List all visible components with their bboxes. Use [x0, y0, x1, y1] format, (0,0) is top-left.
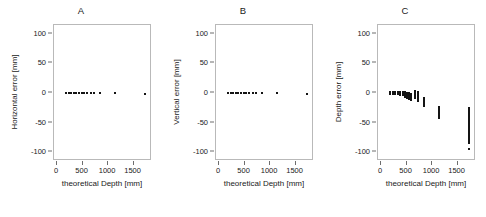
x-tick-label: 1000 — [261, 166, 278, 175]
x-tick-label: 1000 — [423, 166, 440, 175]
y-axis-title-a: Horizontal error [mm] — [10, 24, 19, 160]
y-tick-mark — [48, 121, 52, 122]
data-point — [99, 92, 101, 94]
x-tick-label: 500 — [75, 166, 88, 175]
x-tick-mark — [107, 161, 108, 165]
x-tick-label: 1500 — [286, 166, 303, 175]
x-tick-mark — [457, 161, 458, 165]
y-tick-label: 0 — [204, 88, 208, 97]
plot-area-a — [54, 25, 150, 159]
panel-c: C100500-50-100Depth error [mm]0500100015… — [324, 0, 486, 217]
x-tick-label: 1500 — [448, 166, 465, 175]
panel-title-a: A — [0, 5, 162, 16]
plot-frame-b — [215, 24, 313, 160]
data-point — [414, 90, 416, 92]
x-tick-mark — [406, 161, 407, 165]
x-tick-mark — [380, 161, 381, 165]
data-point — [255, 92, 257, 94]
x-tick-mark — [218, 161, 219, 165]
data-point — [468, 148, 470, 150]
y-tick-mark — [48, 151, 52, 152]
y-tick-mark — [372, 92, 376, 93]
data-point — [438, 106, 440, 108]
x-tick-label: 1000 — [99, 166, 116, 175]
x-axis-a: 050010001500theoretical Depth [mm] — [53, 160, 151, 200]
x-tick-mark — [56, 161, 57, 165]
x-tick-mark — [269, 161, 270, 165]
data-point — [417, 91, 419, 93]
plot-frame-c — [377, 24, 475, 160]
y-tick-label: -50 — [359, 117, 370, 126]
y-tick-mark — [48, 32, 52, 33]
data-point — [468, 107, 470, 109]
y-tick-label: 50 — [362, 58, 370, 67]
y-tick-label: 50 — [38, 58, 46, 67]
y-tick-mark — [372, 151, 376, 152]
y-tick-mark — [210, 62, 214, 63]
panel-title-c: C — [324, 5, 486, 16]
x-tick-mark — [244, 161, 245, 165]
y-tick-mark — [372, 121, 376, 122]
data-point — [114, 92, 116, 94]
x-tick-label: 500 — [399, 166, 412, 175]
data-point — [306, 93, 308, 95]
data-point — [276, 92, 278, 94]
y-tick-label: 100 — [357, 28, 370, 37]
x-tick-label: 500 — [237, 166, 250, 175]
y-tick-label: 100 — [33, 28, 46, 37]
data-point — [423, 97, 425, 99]
y-tick-label: -50 — [35, 117, 46, 126]
plot-frame-a — [53, 24, 151, 160]
plot-area-c — [378, 25, 474, 159]
y-axis-title-b: Vertical error [mm] — [172, 24, 181, 160]
x-tick-label: 0 — [216, 166, 220, 175]
y-tick-label: -50 — [197, 117, 208, 126]
x-axis-title-a: theoretical Depth [mm] — [53, 179, 151, 188]
data-point — [252, 92, 254, 94]
x-tick-mark — [82, 161, 83, 165]
x-axis-c: 050010001500theoretical Depth [mm] — [377, 160, 475, 200]
data-point — [86, 92, 88, 94]
y-tick-label: 50 — [200, 58, 208, 67]
y-axis-b: 100500-50-100Vertical error [mm] — [162, 24, 215, 160]
y-axis-c: 100500-50-100Depth error [mm] — [324, 24, 377, 160]
figure-panel-group: A100500-50-100Horizontal error [mm]05001… — [0, 0, 486, 217]
plot-area-b — [216, 25, 312, 159]
data-point — [261, 92, 263, 94]
x-axis-title-b: theoretical Depth [mm] — [215, 179, 313, 188]
y-tick-mark — [372, 32, 376, 33]
y-tick-label: 0 — [42, 88, 46, 97]
data-point — [144, 93, 146, 95]
data-point — [410, 93, 412, 95]
y-tick-label: 0 — [366, 88, 370, 97]
y-tick-mark — [48, 92, 52, 93]
y-tick-mark — [210, 151, 214, 152]
panel-a: A100500-50-100Horizontal error [mm]05001… — [0, 0, 162, 217]
x-tick-label: 1500 — [124, 166, 141, 175]
y-axis-a: 100500-50-100Horizontal error [mm] — [0, 24, 53, 160]
y-tick-label: 100 — [195, 28, 208, 37]
y-tick-label: -100 — [31, 147, 46, 156]
y-tick-mark — [48, 62, 52, 63]
x-tick-label: 0 — [54, 166, 58, 175]
panel-b: B100500-50-100Vertical error [mm]0500100… — [162, 0, 324, 217]
y-tick-label: -100 — [193, 147, 208, 156]
y-tick-mark — [210, 92, 214, 93]
x-axis-title-c: theoretical Depth [mm] — [377, 179, 475, 188]
y-tick-label: -100 — [355, 147, 370, 156]
x-tick-mark — [133, 161, 134, 165]
y-tick-mark — [372, 62, 376, 63]
x-axis-b: 050010001500theoretical Depth [mm] — [215, 160, 313, 200]
y-axis-title-c: Depth error [mm] — [334, 24, 343, 160]
x-tick-mark — [431, 161, 432, 165]
x-tick-label: 0 — [378, 166, 382, 175]
data-point — [90, 92, 92, 94]
x-tick-mark — [295, 161, 296, 165]
panel-title-b: B — [162, 5, 324, 16]
y-tick-mark — [210, 32, 214, 33]
data-point — [248, 92, 250, 94]
data-point — [93, 92, 95, 94]
y-tick-mark — [210, 121, 214, 122]
